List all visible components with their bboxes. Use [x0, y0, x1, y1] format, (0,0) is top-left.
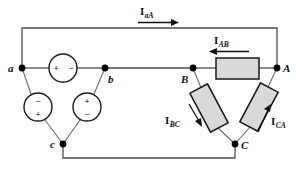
load-delta — [190, 58, 278, 144]
current-symbol-i-bc: I — [165, 114, 169, 126]
current-arrow-head-i-aa — [171, 19, 179, 26]
node-dot-C — [232, 141, 239, 148]
current-label-i-ca: ICA — [271, 115, 286, 130]
current-label-i-ab: IAB — [214, 34, 229, 49]
line-cC-bottom-conductor — [63, 144, 235, 158]
current-subscript-i-bc: BC — [169, 120, 181, 129]
current-subscript-i-ca: CA — [276, 121, 286, 130]
node-label-a: a — [8, 62, 14, 74]
node-dot-c — [60, 141, 67, 148]
voltage-source-ca: − + — [24, 93, 52, 121]
current-subscript-i-ab: AB — [218, 40, 229, 49]
circuit-diagram-figure: + − − + + − — [0, 0, 296, 171]
node-dot-b — [102, 65, 109, 72]
source-delta: + − − + + − — [22, 54, 105, 144]
source-ab-plus-sign: + — [53, 63, 58, 73]
load-resistor-ab — [216, 58, 259, 79]
circuit-canvas: + − − + + − — [0, 0, 296, 171]
current-annotation-i-aa: IaA — [138, 5, 179, 26]
node-label-A: A — [282, 62, 290, 74]
current-arrow-head-i-bc — [195, 118, 202, 127]
source-bc-minus-sign: − — [84, 109, 89, 119]
current-arrow-head-i-ab — [209, 48, 217, 55]
source-bc-plus-sign: + — [84, 96, 89, 106]
line-conductors — [22, 28, 277, 158]
source-ca-lead-top — [22, 68, 31, 94]
voltage-source-bc: + − — [73, 93, 101, 121]
current-symbol-i-ca: I — [271, 115, 275, 127]
source-bc-lead-top — [94, 68, 105, 94]
node-label-B: B — [180, 73, 188, 85]
load-bc-lead-bottom — [218, 128, 235, 144]
node-label-C: C — [241, 139, 249, 151]
current-label-i-aa: IaA — [140, 5, 154, 20]
source-bc-lead-bottom — [63, 120, 80, 144]
node-label-b: b — [108, 73, 114, 85]
current-symbol-i-ab: I — [214, 34, 218, 46]
load-resistor-bc — [190, 84, 228, 132]
voltage-source-ab: + − — [49, 54, 77, 82]
source-ab-minus-sign: − — [68, 63, 73, 73]
current-annotation-i-bc: IBC — [165, 104, 202, 129]
source-ca-plus-sign: + — [35, 109, 40, 119]
current-symbol-i-aa: I — [140, 5, 144, 17]
node-dot-A — [274, 65, 281, 72]
node-dot-B — [190, 65, 197, 72]
source-ca-minus-sign: − — [35, 96, 40, 106]
current-annotation-i-ab: IAB — [209, 34, 249, 55]
current-label-i-bc: IBC — [165, 114, 181, 129]
node-dot-a — [19, 65, 26, 72]
node-label-c: c — [50, 138, 55, 150]
current-subscript-i-aa: aA — [145, 11, 154, 20]
